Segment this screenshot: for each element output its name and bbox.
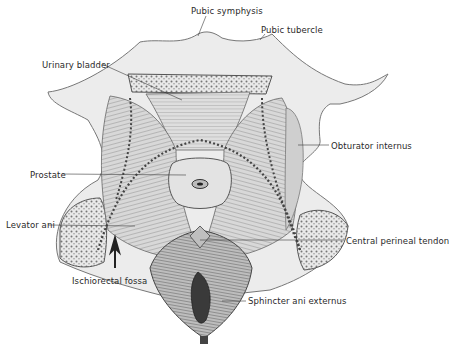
label-urinary-bladder: Urinary bladder <box>42 60 110 70</box>
label-pubic-symphysis: Pubic symphysis <box>191 6 263 16</box>
label-prostate: Prostate <box>30 170 66 180</box>
label-sphincter-ani-externus: Sphincter ani externus <box>248 296 346 306</box>
label-obturator-internus: Obturator internus <box>331 141 412 151</box>
pubic-section <box>128 74 272 94</box>
label-levator-ani: Levator ani <box>6 220 55 230</box>
label-ischiorectal-fossa: Ischiorectal fossa <box>72 276 147 286</box>
label-central-perineal-tendon: Central perineal tendon <box>346 236 449 246</box>
label-pubic-tubercle: Pubic tubercle <box>261 25 323 35</box>
